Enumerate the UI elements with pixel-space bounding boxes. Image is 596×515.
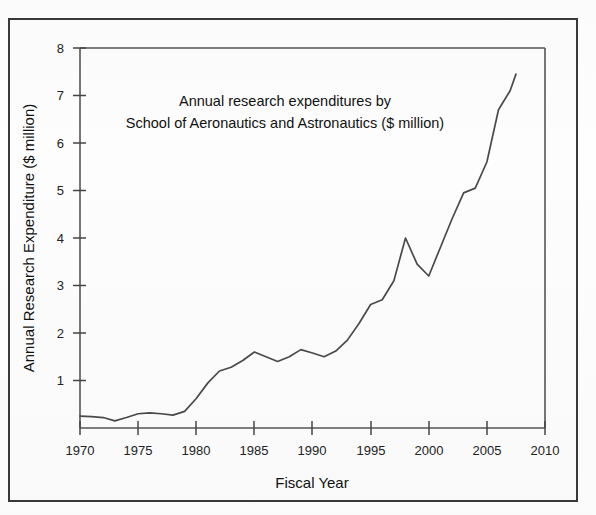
y-tick-label-6: 6 xyxy=(57,136,64,151)
x-tick-label-1975: 1975 xyxy=(124,443,153,458)
y-tick-label-5: 5 xyxy=(57,183,64,198)
y-tick-label-8: 8 xyxy=(57,41,64,56)
figure-container: 1 2 3 4 5 6 7 8 1970 1975 1980 1985 1990… xyxy=(0,0,596,515)
y-tick-label-1: 1 xyxy=(57,373,64,388)
x-tick-label-2005: 2005 xyxy=(473,443,502,458)
x-tick-label-1970: 1970 xyxy=(66,443,95,458)
y-tick-label-3: 3 xyxy=(57,278,64,293)
y-tick-label-7: 7 xyxy=(57,88,64,103)
x-tick-label-1995: 1995 xyxy=(357,443,386,458)
x-tick-label-2010: 2010 xyxy=(531,443,560,458)
x-axis-label: Fiscal Year xyxy=(275,474,348,491)
chart-title-line-2: School of Aeronautics and Astronautics (… xyxy=(126,115,444,131)
x-tick-label-2000: 2000 xyxy=(415,443,444,458)
x-tick-label-1980: 1980 xyxy=(182,443,211,458)
y-tick-label-2: 2 xyxy=(57,326,64,341)
chart-canvas: 1 2 3 4 5 6 7 8 1970 1975 1980 1985 1990… xyxy=(0,0,596,515)
x-tick-label-1990: 1990 xyxy=(298,443,327,458)
y-tick-label-4: 4 xyxy=(57,231,64,246)
chart-title-line-1: Annual research expenditures by xyxy=(179,93,392,109)
y-axis-label: Annual Research Expenditure ($ million) xyxy=(20,104,37,372)
x-tick-label-1985: 1985 xyxy=(240,443,269,458)
